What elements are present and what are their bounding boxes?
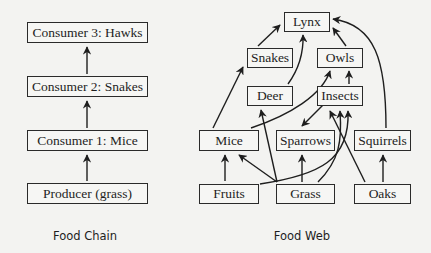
web-node-fruits: Fruits — [199, 184, 259, 204]
chain-box-consumer-1-mice: Consumer 1: Mice — [27, 130, 148, 151]
chain-label-mice: Consumer 1: Mice — [37, 134, 138, 148]
arrow-squirrels-to-lynx — [333, 19, 386, 128]
food-web-caption: Food Web — [274, 229, 330, 243]
arrow-insects-to-sparrows — [302, 103, 325, 126]
chain-label-grass: Producer (grass) — [43, 187, 132, 201]
web-node-owls: Owls — [317, 48, 363, 68]
chain-box-consumer-3-hawks: Consumer 3: Hawks — [27, 22, 148, 43]
web-label-lynx: Lynx — [293, 15, 321, 29]
web-label-fruits: Fruits — [213, 187, 245, 201]
web-label-deer: Deer — [257, 89, 283, 103]
web-node-mice: Mice — [199, 130, 259, 151]
web-node-snakes: Snakes — [247, 48, 293, 68]
web-node-sparrows: Sparrows — [276, 130, 335, 151]
web-node-insects: Insects — [317, 86, 363, 106]
chain-label-hawks: Consumer 3: Hawks — [32, 26, 142, 40]
web-label-sparrows: Sparrows — [280, 134, 331, 148]
arrow-mice-to-snakes — [213, 67, 243, 128]
arrow-snakes-to-lynx — [258, 25, 280, 46]
web-label-insects: Insects — [321, 89, 359, 103]
web-node-deer: Deer — [247, 86, 293, 106]
web-label-snakes: Snakes — [251, 51, 289, 65]
web-label-owls: Owls — [326, 51, 355, 65]
web-label-grass: Grass — [290, 187, 321, 201]
chain-box-producer-grass: Producer (grass) — [27, 183, 148, 204]
web-node-grass: Grass — [276, 184, 335, 204]
web-node-squirrels: Squirrels — [354, 130, 411, 151]
chain-box-consumer-2-snakes: Consumer 2: Snakes — [27, 76, 148, 97]
arrow-owls-to-lynx — [333, 28, 346, 46]
food-chain-caption: Food Chain — [53, 229, 117, 243]
web-label-oaks: Oaks — [369, 187, 397, 201]
web-node-lynx: Lynx — [284, 12, 330, 32]
web-label-squirrels: Squirrels — [358, 134, 407, 148]
web-label-mice: Mice — [215, 134, 243, 148]
web-node-oaks: Oaks — [354, 184, 411, 204]
chain-label-snakes: Consumer 2: Snakes — [32, 80, 143, 94]
